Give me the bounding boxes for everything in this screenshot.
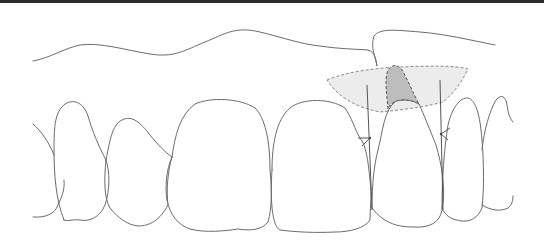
tick-mark-right	[441, 128, 450, 140]
tooth-3	[105, 118, 172, 226]
tooth-4-central-incisor	[166, 99, 271, 231]
tooth-6-lateral-incisor	[372, 100, 444, 227]
tick-dot-left	[369, 137, 371, 139]
tooth-5-central-incisor	[271, 101, 371, 233]
tick-dot-right	[440, 133, 442, 135]
gingival-margin-line	[33, 30, 495, 66]
tooth-1	[33, 124, 64, 217]
tooth-8-partial	[482, 97, 513, 211]
tooth-2	[54, 102, 109, 221]
dental-illustration	[0, 0, 544, 247]
tooth-7-canine	[442, 98, 484, 221]
